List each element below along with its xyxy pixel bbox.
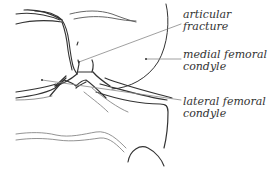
lower-bone-lines bbox=[16, 88, 128, 152]
lateral-condyle-outline bbox=[128, 147, 164, 166]
label-articular-fracture: articular fracture bbox=[183, 9, 231, 33]
upper-right-outline bbox=[70, 11, 136, 22]
upper-bone-outline bbox=[16, 10, 78, 74]
label-lateral-femoral-condyle-line2: condyle bbox=[183, 108, 266, 120]
label-lateral-femoral-condyle: lateral femoral condyle bbox=[183, 96, 266, 120]
leader-lines bbox=[41, 24, 181, 100]
label-medial-femoral-condyle: medial femoral condyle bbox=[183, 49, 267, 73]
label-medial-femoral-condyle-line2: condyle bbox=[183, 61, 267, 73]
label-articular-fracture-line2: fracture bbox=[183, 21, 231, 33]
